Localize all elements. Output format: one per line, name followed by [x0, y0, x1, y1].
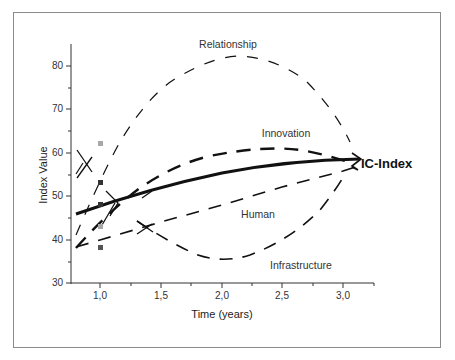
chart-canvas: 80 70 60 50 40 30 1,0 1,5 2,0 2,5 3,0 Ti…	[0, 0, 455, 360]
x-tick-label: 1,5	[154, 290, 168, 301]
innovation-line	[76, 148, 348, 248]
marker-innovation-top	[98, 180, 103, 185]
x-tick-label: 1,0	[93, 290, 107, 301]
marker-ic-index	[98, 202, 103, 207]
label-human: Human	[241, 208, 275, 220]
marker-relationship	[98, 141, 103, 146]
x-axis	[71, 283, 374, 288]
y-tick-labels: 80 70 60 50 40 30	[52, 60, 64, 288]
y-tick-label: 40	[52, 234, 64, 245]
x-axis-title: Time (years)	[191, 308, 252, 320]
x-tick-labels: 1,0 1,5 2,0 2,5 3,0	[93, 290, 350, 301]
x-tick-label: 3,0	[336, 290, 350, 301]
marker-human	[98, 245, 103, 250]
relationship-start-segment	[76, 163, 83, 174]
label-infrastructure: Infrastructure	[270, 259, 332, 271]
y-tick-label: 60	[52, 147, 64, 158]
x-tick-label: 2,0	[215, 290, 229, 301]
y-tick-label: 50	[52, 190, 64, 201]
data-markers	[98, 141, 103, 250]
y-tick-label: 70	[52, 103, 64, 114]
y-tick-label: 30	[52, 277, 64, 288]
marker-innovation	[98, 224, 103, 229]
label-innovation: Innovation	[262, 127, 311, 139]
y-tick-label: 80	[52, 60, 64, 71]
label-relationship: Relationship	[199, 38, 257, 50]
label-ic-index: IC-Index	[361, 156, 413, 171]
x-tick-label: 2,5	[275, 290, 289, 301]
y-axis-title: Index Value	[37, 146, 49, 203]
y-axis	[66, 44, 71, 284]
